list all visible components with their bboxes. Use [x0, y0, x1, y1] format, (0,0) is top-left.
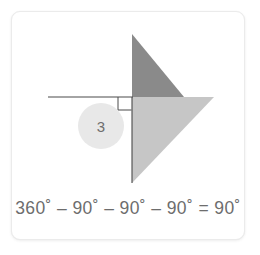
light-triangle — [132, 97, 214, 183]
screenshot-root: 3 360˚ – 90˚ – 90˚ – 90˚ = 90˚ — [0, 0, 260, 255]
dark-triangle — [132, 34, 184, 97]
step-badge-label: 3 — [97, 118, 105, 135]
diagram-card: 3 360˚ – 90˚ – 90˚ – 90˚ = 90˚ — [11, 11, 245, 240]
right-angle-marker — [118, 97, 132, 110]
equation-label: 360˚ – 90˚ – 90˚ – 90˚ = 90˚ — [12, 198, 244, 219]
